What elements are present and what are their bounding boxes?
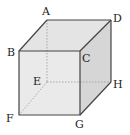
- vertex-label-g: G: [75, 118, 84, 131]
- cube-diagram: A D B C E H F G: [0, 0, 130, 135]
- front-face: [19, 51, 80, 115]
- vertex-label-c: C: [82, 52, 90, 65]
- vertex-label-f: F: [6, 112, 14, 125]
- vertex-label-d: D: [113, 12, 122, 25]
- vertex-label-e: E: [33, 75, 41, 88]
- vertex-label-h: H: [113, 78, 123, 91]
- cube-figure: A D B C E H F G: [0, 0, 130, 135]
- vertex-label-a: A: [41, 5, 51, 18]
- vertex-label-b: B: [7, 46, 15, 59]
